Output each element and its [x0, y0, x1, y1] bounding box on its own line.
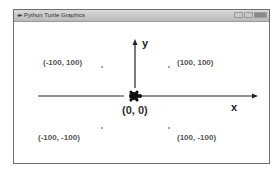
origin-label: (0, 0): [122, 104, 148, 116]
minimize-button[interactable]: [234, 12, 243, 18]
window-controls: [234, 12, 267, 19]
x-axis-label: x: [231, 101, 237, 113]
point-label: (100, -100): [177, 133, 216, 142]
close-button[interactable]: [254, 12, 267, 18]
point-dot: [101, 66, 103, 68]
window-title: Python Turtle Graphics: [24, 11, 85, 20]
point-dot: [101, 127, 103, 129]
point-dot: [168, 127, 170, 129]
turtle-window: ✒ Python Turtle Graphics: [13, 9, 270, 164]
y-arrow-icon: [133, 39, 138, 45]
maximize-button[interactable]: [244, 12, 253, 18]
point-dot: [168, 66, 170, 68]
point-label: (-100, -100): [38, 133, 80, 142]
point-label: (-100, 100): [43, 58, 82, 67]
turtle-icon: [129, 90, 142, 101]
feather-icon: ✒: [17, 12, 23, 19]
turtle-canvas[interactable]: y x (0, 0) (-100, 100) (100, 100) (-100,…: [14, 22, 269, 164]
title-bar[interactable]: ✒ Python Turtle Graphics: [14, 10, 269, 22]
x-arrow-icon: [252, 94, 258, 99]
point-label: (100, 100): [177, 58, 213, 67]
y-axis-label: y: [142, 37, 148, 49]
